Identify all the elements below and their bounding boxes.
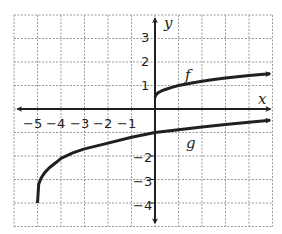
x-tick-neg1: −1 xyxy=(117,116,136,131)
y-tick-neg2: −2 xyxy=(133,150,152,165)
curve-f-label: f xyxy=(184,66,193,84)
curve-g-label: g xyxy=(186,134,196,152)
x-tick-neg3: −3 xyxy=(70,116,89,131)
x-tick-neg5: −5 xyxy=(23,116,42,131)
y-tick-2: 2 xyxy=(141,54,149,69)
x-tick-neg2: −2 xyxy=(93,116,112,131)
y-axis-label: y xyxy=(163,14,173,32)
y-tick-1: 1 xyxy=(141,78,149,93)
graph-figure: x y f g −5 −4 −3 −2 −1 3 2 1 −2 −3 −4 xyxy=(0,0,282,234)
x-tick-neg4: −4 xyxy=(46,116,65,131)
y-tick-neg3: −3 xyxy=(133,174,152,189)
y-tick-3: 3 xyxy=(141,30,149,45)
curves xyxy=(38,74,271,203)
tick-labels: x y f g −5 −4 −3 −2 −1 3 2 1 −2 −3 −4 xyxy=(23,14,267,213)
x-axis-label: x xyxy=(258,90,267,108)
y-tick-neg4: −4 xyxy=(133,198,152,213)
